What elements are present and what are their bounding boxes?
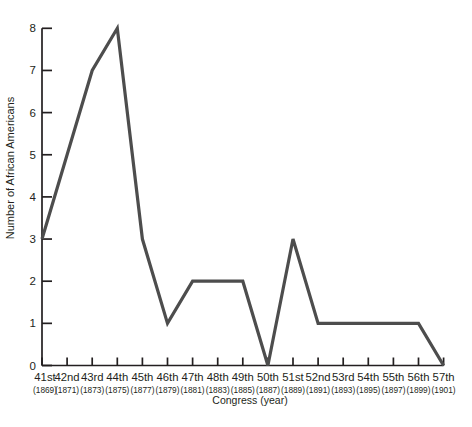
x-tick-label: 46th [157, 371, 179, 383]
chart-container: 01234567841st(1869)42nd(1871)43rd(1873)4… [0, 0, 472, 427]
x-tick-label: 48th [207, 371, 229, 383]
x-tick-year-label: (1873) [80, 385, 104, 395]
x-tick-label: 47th [182, 371, 204, 383]
x-tick-year-label: (1883) [206, 385, 230, 395]
x-tick-label: 42nd [55, 371, 80, 383]
y-tick-label: 7 [30, 64, 36, 76]
x-tick-label: 51st [282, 371, 304, 383]
x-tick-year-label: (1885) [231, 385, 255, 395]
data-line-series [42, 28, 444, 365]
x-tick-label: 43rd [81, 371, 104, 383]
x-axis-title: Congress (year) [212, 394, 287, 406]
x-tick-year-label: (1891) [306, 385, 330, 395]
x-tick-label: 41st [34, 371, 56, 383]
congress-members-line-chart: 01234567841st(1869)42nd(1871)43rd(1873)4… [0, 0, 472, 427]
x-tick-label: 57th [433, 371, 455, 383]
y-tick-label: 8 [30, 22, 36, 34]
y-tick-label: 1 [30, 317, 36, 329]
x-tick-label: 44th [106, 371, 128, 383]
x-tick-year-label: (1893) [331, 385, 355, 395]
x-tick-year-label: (1877) [130, 385, 154, 395]
x-tick-year-label: (1901) [432, 385, 456, 395]
x-tick-year-label: (1895) [356, 385, 380, 395]
x-tick-label: 56th [408, 371, 430, 383]
x-tick-label: 50th [257, 371, 279, 383]
x-tick-year-label: (1871) [55, 385, 79, 395]
x-tick-label: 45th [131, 371, 153, 383]
x-tick-year-label: (1881) [181, 385, 205, 395]
x-tick-year-label: (1879) [156, 385, 180, 395]
x-tick-year-label: (1889) [281, 385, 305, 395]
x-tick-year-label: (1899) [407, 385, 431, 395]
x-tick-label: 54th [357, 371, 379, 383]
y-axis-title: Number of African Americans [4, 96, 16, 239]
x-tick-year-label: (1869) [33, 385, 57, 395]
x-tick-year-label: (1897) [381, 385, 405, 395]
y-tick-label: 6 [30, 107, 36, 119]
x-tick-label: 49th [232, 371, 254, 383]
y-tick-label: 2 [30, 275, 36, 287]
x-tick-label: 55th [382, 371, 404, 383]
y-tick-label: 4 [30, 191, 37, 203]
x-tick-label: 52nd [306, 371, 331, 383]
y-tick-label: 0 [30, 360, 36, 372]
y-tick-label: 3 [30, 233, 36, 245]
x-tick-year-label: (1887) [256, 385, 280, 395]
y-tick-label: 5 [30, 149, 36, 161]
x-tick-year-label: (1875) [105, 385, 129, 395]
x-tick-label: 53rd [332, 371, 355, 383]
